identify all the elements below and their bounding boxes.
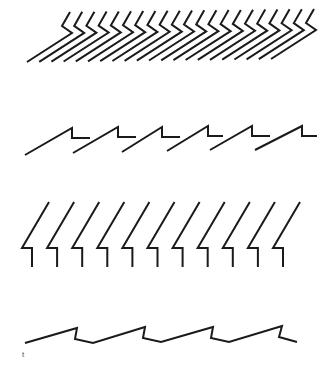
wave-line: [25, 326, 297, 343]
row-2-sawtooth-step: [25, 126, 317, 155]
lightning-glyph: [173, 202, 200, 267]
lightning-glyph: [273, 202, 300, 267]
figure-canvas: [0, 0, 332, 374]
lightning-glyph: [22, 202, 49, 267]
row-1-chevron-strokes: [27, 9, 316, 62]
row-3-lightning-glyphs: [22, 202, 300, 267]
lightning-glyph: [47, 202, 74, 267]
lightning-glyph: [248, 202, 275, 267]
lightning-glyph: [122, 202, 149, 267]
row-4-continuous-wave: [25, 326, 297, 343]
sawtooth-unit: [25, 128, 90, 155]
sawtooth-unit: [255, 126, 317, 150]
lightning-glyph: [223, 202, 250, 267]
lightning-glyph: [198, 202, 225, 267]
chevron-stroke: [271, 9, 316, 59]
caption-label: t: [22, 351, 24, 359]
lightning-glyph: [72, 202, 99, 267]
lightning-glyph: [148, 202, 175, 267]
lightning-glyph: [97, 202, 124, 267]
